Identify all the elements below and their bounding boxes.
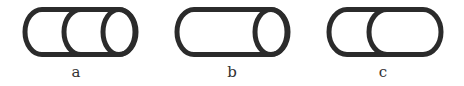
shape-b-outline [177,10,288,55]
shape-c [329,10,441,55]
shape-b-end-ellipse [255,10,287,55]
shape-b [177,10,288,55]
shape-a-end-ellipse [103,10,135,55]
shape-a-outline [25,10,136,55]
shape-a-mid-arc [64,10,81,55]
label-c: c [373,63,393,81]
shape-a [25,10,136,55]
shape-c-outline [329,10,441,55]
label-a: a [66,63,86,81]
label-b: b [222,63,242,81]
shape-c-mid-arc [369,10,387,55]
